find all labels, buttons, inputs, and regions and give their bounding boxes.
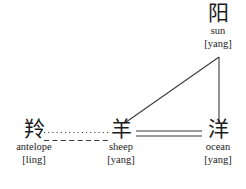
node-sun-hanzi: 阳 (180, 2, 246, 25)
node-sun-gloss: sun (180, 25, 246, 38)
node-sheep-gloss: sheep (86, 141, 156, 154)
node-sheep-pinyin: [yang] (86, 154, 156, 167)
node-antelope[interactable]: 羚 antelope [ling] (0, 118, 72, 166)
node-sheep[interactable]: 羊 sheep [yang] (86, 118, 156, 166)
node-ocean-hanzi: 洋 (180, 118, 246, 141)
node-ocean[interactable]: 洋 ocean [yang] (180, 118, 246, 166)
edge-sheep-sun-diagonal (124, 57, 219, 124)
node-antelope-gloss: antelope (0, 141, 72, 154)
node-ocean-gloss: ocean (180, 141, 246, 154)
node-sun-pinyin: [yang] (180, 38, 246, 51)
node-ocean-pinyin: [yang] (180, 154, 246, 167)
node-antelope-pinyin: [ling] (0, 154, 72, 167)
node-sheep-hanzi: 羊 (86, 118, 156, 141)
node-sun[interactable]: 阳 sun [yang] (180, 2, 246, 50)
diagram-canvas: 阳 sun [yang] 羚 antelope [ling] 羊 sheep [… (0, 0, 246, 189)
node-antelope-hanzi: 羚 (0, 118, 72, 141)
